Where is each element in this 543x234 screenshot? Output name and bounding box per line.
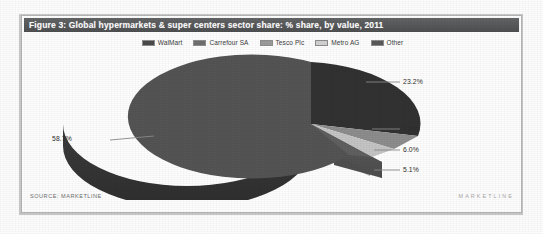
data-label-carrefour-sa: 23.2% <box>403 79 423 86</box>
pie-chart-3d <box>22 50 522 200</box>
data-label-walmart: 58.7% <box>52 136 72 143</box>
legend-swatch-tesco-plc <box>260 40 273 46</box>
legend-swatch-other <box>371 40 384 46</box>
legend-swatch-carrefour-sa <box>193 40 206 46</box>
data-label-metro-ag: 6.0% <box>403 147 419 154</box>
figure-footer: SOURCE: MARKETLINE MARKETLINE <box>22 190 522 212</box>
legend-label-metro-ag: Metro AG <box>331 40 359 47</box>
legend-swatch-walmart <box>142 40 155 46</box>
marketline-watermark: MARKETLINE <box>459 194 514 199</box>
data-label-tesco-plc: 7.0% <box>403 126 419 133</box>
data-label-other: 5.1% <box>403 167 419 174</box>
legend-label-tesco-plc: Tesco Plc <box>276 40 305 47</box>
figure-title: Figure 3: Global hypermarkets & super ce… <box>29 21 384 30</box>
legend-item-other[interactable]: Other <box>371 40 404 47</box>
source-note: SOURCE: MARKETLINE <box>30 194 102 200</box>
legend-swatch-metro-ag <box>315 40 328 46</box>
chart-plot-area: 58.7% 23.2% 7.0% 6.0% 5.1% <box>22 50 522 200</box>
legend-item-walmart[interactable]: WalMart <box>142 40 183 47</box>
legend-label-other: Other <box>387 40 404 47</box>
legend-label-carrefour-sa: Carrefour SA <box>209 40 248 47</box>
figure-title-bar: Figure 3: Global hypermarkets & super ce… <box>24 18 519 32</box>
chart-legend: WalMart Carrefour SA Tesco Plc Metro AG … <box>22 36 522 50</box>
scanned-page: Figure 3: Global hypermarkets & super ce… <box>0 0 543 234</box>
legend-item-carrefour-sa[interactable]: Carrefour SA <box>193 40 248 47</box>
legend-item-tesco-plc[interactable]: Tesco Plc <box>260 40 305 47</box>
legend-item-metro-ag[interactable]: Metro AG <box>315 40 359 47</box>
figure-panel: Figure 3: Global hypermarkets & super ce… <box>21 15 522 213</box>
legend-label-walmart: WalMart <box>158 40 183 47</box>
